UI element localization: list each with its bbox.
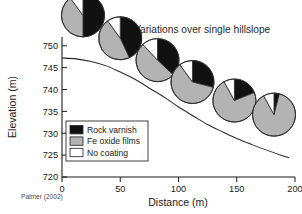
y-tick-label: 720 [43, 172, 58, 182]
y-tick-label: 740 [43, 85, 58, 95]
pie-chart-group [61, 0, 295, 136]
hillslope-pie-figure: 720725730735740745750 050100150200 Eleva… [0, 0, 302, 214]
figure-canvas: 720725730735740745750 050100150200 Eleva… [0, 0, 302, 214]
legend-swatch-rock-varnish [70, 126, 83, 134]
legend-label-no-coating: No coating [87, 148, 128, 158]
x-tick-label: 50 [115, 184, 125, 194]
x-axis-title: Distance (m) [148, 196, 208, 208]
pie-chart [171, 61, 214, 104]
y-tick-label: 730 [43, 129, 58, 139]
y-tick-label: 750 [43, 41, 58, 51]
x-axis-ticks: 050100150200 [59, 177, 302, 194]
y-axis-title: Elevation (m) [6, 76, 18, 138]
x-tick-label: 150 [229, 184, 244, 194]
legend: Rock varnishFe oxide filmsNo coating [66, 121, 148, 161]
x-tick-label: 200 [287, 184, 302, 194]
legend-swatch-fe-oxide-films [70, 137, 83, 145]
y-tick-label: 745 [43, 63, 58, 73]
chart-title: Variations over single hillslope [134, 24, 271, 35]
y-axis-ticks: 720725730735740745750 [43, 41, 67, 182]
pie-chart [61, 0, 104, 37]
x-tick-label: 100 [171, 184, 186, 194]
pie-chart [213, 79, 256, 122]
legend-label-fe-oxide-films: Fe oxide films [87, 136, 140, 146]
pie-chart [99, 17, 142, 60]
y-tick-label: 725 [43, 150, 58, 160]
legend-label-rock-varnish: Rock varnish [87, 125, 137, 135]
y-tick-label: 735 [43, 107, 58, 117]
figure-credit: Palmer (2002) [21, 193, 63, 201]
legend-swatch-no-coating [70, 148, 83, 156]
pie-chart [253, 93, 296, 136]
